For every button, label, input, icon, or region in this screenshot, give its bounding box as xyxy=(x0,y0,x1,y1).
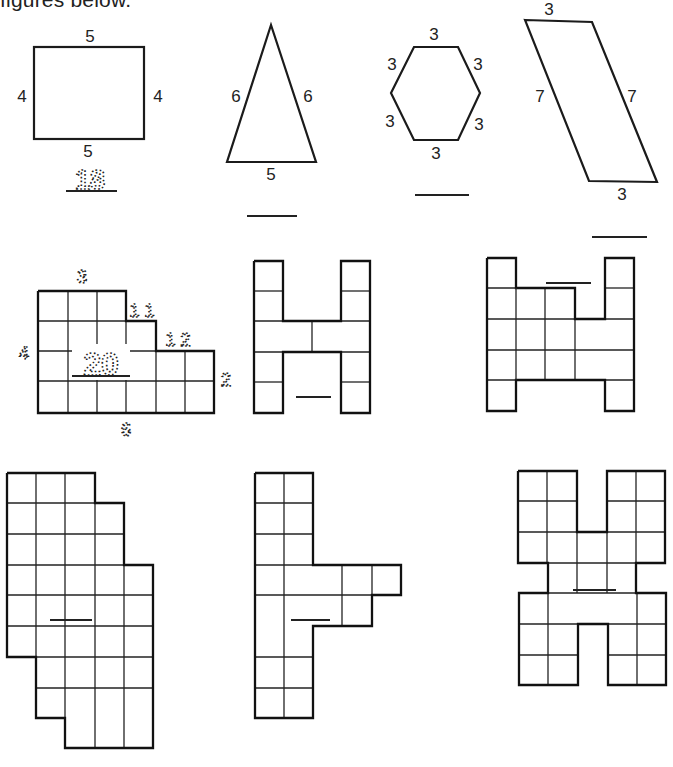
triangle-right-label: 6 xyxy=(303,87,312,106)
hexagon-top-label: 3 xyxy=(429,25,438,44)
triangle-bottom-label: 5 xyxy=(266,165,275,184)
hexagon-lower-right-label: 3 xyxy=(474,115,483,134)
x-grid-figure xyxy=(518,471,666,685)
staircase-bottom-label: 6 xyxy=(121,420,131,440)
rectangle-shape xyxy=(34,47,144,139)
rectangle-right-label: 4 xyxy=(153,87,162,106)
h-grid-wide-figure xyxy=(487,258,634,411)
staircase-step2-label: 1 2 xyxy=(165,330,190,350)
parallelogram-right-label: 7 xyxy=(627,87,636,106)
staircase-step1-label: 1 1 xyxy=(129,301,154,321)
hexagon-upper-right-label: 3 xyxy=(473,55,482,74)
h-grid-wide-outline xyxy=(487,258,634,411)
h-grid-small-figure xyxy=(254,261,370,413)
parallelogram-bottom-label: 3 xyxy=(617,185,626,204)
hexagon-lower-left-label: 3 xyxy=(385,112,394,131)
hexagon-shape xyxy=(391,47,480,140)
hexagon-upper-left-label: 3 xyxy=(387,55,396,74)
h-grid-wide-lines xyxy=(487,288,634,380)
triangle-left-label: 6 xyxy=(231,87,240,106)
parallelogram-top-label: 3 xyxy=(544,0,553,19)
rectangle-figure: 5 4 4 5 18 xyxy=(17,27,162,195)
staircase-top-label: 3 xyxy=(77,267,87,287)
rectangle-bottom-label: 5 xyxy=(83,142,92,161)
parallelogram-shape xyxy=(525,20,657,182)
rectangle-left-label: 4 xyxy=(17,87,26,106)
rectangle-top-label: 5 xyxy=(85,27,94,46)
parallelogram-figure: 3 7 7 3 xyxy=(525,0,657,237)
staircase-right-label: 2 xyxy=(221,370,231,390)
x-grid-lines xyxy=(518,471,666,685)
hexagon-figure: 3 3 3 3 3 3 xyxy=(385,25,483,195)
h-grid-small-lines xyxy=(254,291,370,382)
stepped-grid-tall-figure xyxy=(7,473,153,748)
triangle-figure: 6 6 5 xyxy=(227,25,316,216)
stepped-grid-tall-outline xyxy=(7,473,153,748)
hexagon-bottom-label: 3 xyxy=(431,144,440,163)
staircase-left-label: 4 xyxy=(19,343,29,363)
flag-grid-figure xyxy=(255,473,401,718)
x-grid-outline xyxy=(518,471,666,685)
stepped-grid-tall-lines xyxy=(7,473,153,748)
staircase-grid-figure: 3 1 1 1 2 4 2 6 20 xyxy=(19,267,231,440)
parallelogram-left-label: 7 xyxy=(535,87,544,106)
